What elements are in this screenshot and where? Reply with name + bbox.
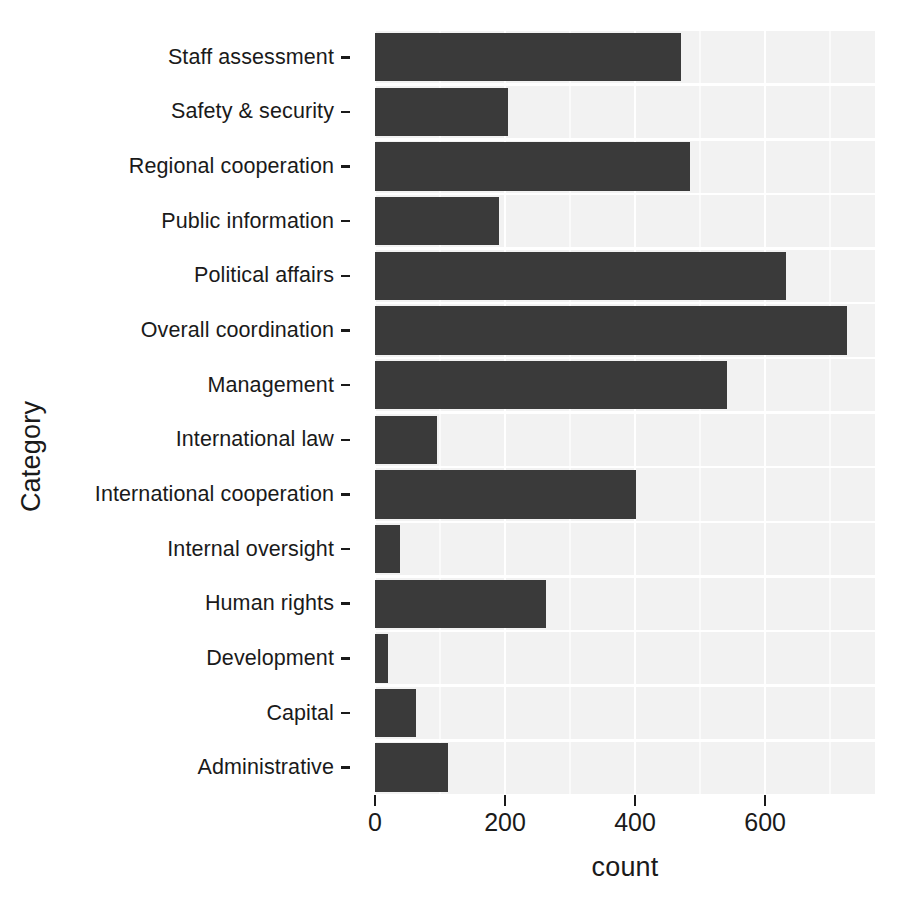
plot-panel: [375, 30, 875, 795]
gridline-horizontal: [375, 83, 875, 86]
y-axis-tick-labels: Staff assessmentSafety & securityRegiona…: [62, 30, 350, 795]
y-axis-tick-label: Overall coordination: [62, 303, 350, 358]
y-axis-tick-label: Regional cooperation: [62, 139, 350, 194]
y-axis-tick-label: Human rights: [62, 576, 350, 631]
y-axis-tick-label-text: Regional cooperation: [129, 154, 334, 179]
y-axis-tick-dash-icon: [341, 493, 350, 496]
y-axis-tick-label: Internal oversight: [62, 522, 350, 577]
x-axis-title: count: [375, 852, 875, 883]
x-axis-tick-label: 0: [368, 808, 382, 837]
gridline-horizontal: [375, 466, 875, 469]
y-axis-tick-label-text: Development: [206, 646, 334, 671]
gridline-horizontal: [375, 247, 875, 250]
y-axis-tick-label: Safety & security: [62, 85, 350, 140]
bar: [375, 361, 727, 409]
y-axis-tick-dash-icon: [341, 329, 350, 332]
bar-chart: Category Staff assessmentSafety & securi…: [0, 0, 906, 913]
gridline-horizontal: [375, 739, 875, 742]
y-axis-tick-label-text: Political affairs: [194, 263, 334, 288]
gridline-horizontal: [375, 411, 875, 414]
bar: [375, 525, 400, 573]
x-axis-tick-label: 600: [744, 808, 786, 837]
y-axis-tick-dash-icon: [341, 766, 350, 769]
bar: [375, 33, 681, 81]
gridline-horizontal: [375, 302, 875, 305]
gridline-horizontal: [375, 138, 875, 141]
y-axis-tick-label: Administrative: [62, 740, 350, 795]
x-axis-tick-labels: 0200400600: [375, 808, 875, 842]
y-axis-tick-dash-icon: [341, 712, 350, 715]
y-axis-title: Category: [0, 0, 62, 913]
y-axis-tick-label: International law: [62, 413, 350, 468]
y-axis-tick-label-text: Staff assessment: [168, 45, 334, 70]
y-axis-tick-label-text: Safety & security: [171, 99, 334, 124]
bar: [375, 743, 448, 791]
y-axis-tick-dash-icon: [341, 384, 350, 387]
bar: [375, 306, 847, 354]
y-axis-tick-dash-icon: [341, 439, 350, 442]
y-axis-tick-dash-icon: [341, 275, 350, 278]
y-axis-tick-label-text: Human rights: [205, 591, 334, 616]
bar: [375, 416, 437, 464]
y-axis-tick-label-text: Internal oversight: [167, 537, 334, 562]
y-axis-tick-label-text: Overall coordination: [141, 318, 334, 343]
gridline-horizontal: [375, 357, 875, 360]
y-axis-tick-dash-icon: [341, 602, 350, 605]
y-axis-tick-label-text: International law: [176, 427, 334, 452]
y-axis-tick-dash-icon: [341, 56, 350, 59]
y-axis-tick-label: Public information: [62, 194, 350, 249]
y-axis-tick-dash-icon: [341, 548, 350, 551]
y-axis-tick-dash-icon: [341, 220, 350, 223]
y-axis-tick-label: Political affairs: [62, 249, 350, 304]
y-axis-tick-label: Staff assessment: [62, 30, 350, 85]
gridline-horizontal: [375, 30, 875, 31]
y-axis-tick-dash-icon: [341, 111, 350, 114]
bar: [375, 634, 388, 682]
gridline-horizontal: [375, 684, 875, 687]
x-axis-tick-mark: [634, 795, 637, 806]
y-axis-tick-dash-icon: [341, 165, 350, 168]
y-axis-tick-label-text: International cooperation: [95, 482, 334, 507]
gridline-horizontal: [375, 521, 875, 524]
x-axis-tick-mark: [764, 795, 767, 806]
gridline-horizontal: [375, 630, 875, 633]
gridline-horizontal: [375, 193, 875, 196]
y-axis-tick-label: Capital: [62, 686, 350, 741]
y-axis-tick-label-text: Capital: [266, 701, 334, 726]
bar: [375, 689, 416, 737]
x-axis-tick-mark: [504, 795, 507, 806]
bar: [375, 470, 636, 518]
bar: [375, 580, 546, 628]
bar: [375, 252, 786, 300]
bar: [375, 142, 690, 190]
y-axis-tick-label: Development: [62, 631, 350, 686]
x-axis-tick-marks: [375, 795, 875, 807]
y-axis-tick-label-text: Administrative: [198, 755, 334, 780]
x-axis-tick-mark: [374, 795, 377, 806]
x-axis-tick-label: 400: [614, 808, 656, 837]
y-axis-tick-label-text: Management: [208, 373, 335, 398]
y-axis-tick-dash-icon: [341, 657, 350, 660]
gridline-horizontal: [375, 575, 875, 578]
x-axis-tick-label: 200: [484, 808, 526, 837]
y-axis-tick-label: International cooperation: [62, 467, 350, 522]
y-axis-tick-label-text: Public information: [161, 209, 334, 234]
bar: [375, 197, 499, 245]
y-axis-tick-label: Management: [62, 358, 350, 413]
bar: [375, 88, 508, 136]
